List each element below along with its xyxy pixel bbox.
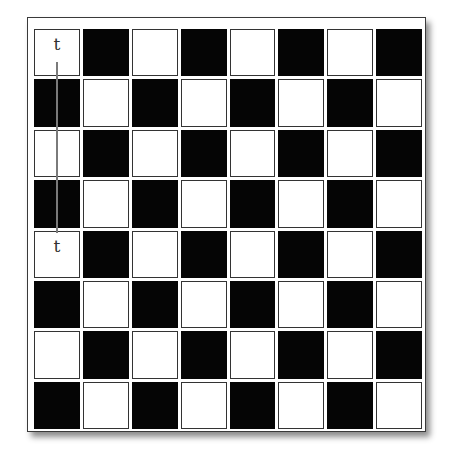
square-r2-c7 xyxy=(376,130,422,177)
square-r3-c5 xyxy=(278,180,324,227)
square-r7-c4 xyxy=(230,382,276,429)
square-r0-c1 xyxy=(83,29,129,76)
square-label: t xyxy=(35,36,79,53)
square-r0-c6 xyxy=(327,29,373,76)
square-r6-c4 xyxy=(230,331,276,378)
square-r3-c4 xyxy=(230,180,276,227)
square-r6-c6 xyxy=(327,331,373,378)
square-r5-c4 xyxy=(230,281,276,328)
square-label: t xyxy=(35,238,79,255)
square-r7-c5 xyxy=(278,382,324,429)
square-r2-c2 xyxy=(132,130,178,177)
square-r0-c5 xyxy=(278,29,324,76)
square-r4-c7 xyxy=(376,231,422,278)
square-r4-c5 xyxy=(278,231,324,278)
square-r3-c6 xyxy=(327,180,373,227)
square-r1-c6 xyxy=(327,79,373,126)
square-r2-c6 xyxy=(327,130,373,177)
square-r4-c6 xyxy=(327,231,373,278)
square-r5-c7 xyxy=(376,281,422,328)
square-r2-c1 xyxy=(83,130,129,177)
square-r1-c2 xyxy=(132,79,178,126)
square-r4-c2 xyxy=(132,231,178,278)
square-r3-c1 xyxy=(83,180,129,227)
square-r4-c0: t xyxy=(34,231,80,278)
square-r1-c3 xyxy=(181,79,227,126)
square-r1-c1 xyxy=(83,79,129,126)
square-r5-c1 xyxy=(83,281,129,328)
square-r7-c6 xyxy=(327,382,373,429)
square-r2-c3 xyxy=(181,130,227,177)
square-r2-c4 xyxy=(230,130,276,177)
square-r7-c1 xyxy=(83,382,129,429)
square-r5-c0 xyxy=(34,281,80,328)
square-r3-c2 xyxy=(132,180,178,227)
square-r5-c2 xyxy=(132,281,178,328)
square-r5-c6 xyxy=(327,281,373,328)
square-r6-c5 xyxy=(278,331,324,378)
square-r7-c7 xyxy=(376,382,422,429)
square-r1-c4 xyxy=(230,79,276,126)
square-r5-c5 xyxy=(278,281,324,328)
square-r0-c2 xyxy=(132,29,178,76)
square-r0-c7 xyxy=(376,29,422,76)
square-r2-c5 xyxy=(278,130,324,177)
square-r7-c2 xyxy=(132,382,178,429)
square-r4-c4 xyxy=(230,231,276,278)
square-r6-c3 xyxy=(181,331,227,378)
square-r3-c3 xyxy=(181,180,227,227)
square-r7-c3 xyxy=(181,382,227,429)
square-r4-c3 xyxy=(181,231,227,278)
square-r0-c3 xyxy=(181,29,227,76)
move-path-line xyxy=(56,62,58,233)
square-r3-c7 xyxy=(376,180,422,227)
square-r0-c4 xyxy=(230,29,276,76)
square-r6-c7 xyxy=(376,331,422,378)
chessboard: tt xyxy=(34,29,422,429)
square-r6-c2 xyxy=(132,331,178,378)
square-r6-c1 xyxy=(83,331,129,378)
square-r6-c0 xyxy=(34,331,80,378)
square-r1-c7 xyxy=(376,79,422,126)
square-r7-c0 xyxy=(34,382,80,429)
square-r5-c3 xyxy=(181,281,227,328)
square-r4-c1 xyxy=(83,231,129,278)
square-r1-c5 xyxy=(278,79,324,126)
